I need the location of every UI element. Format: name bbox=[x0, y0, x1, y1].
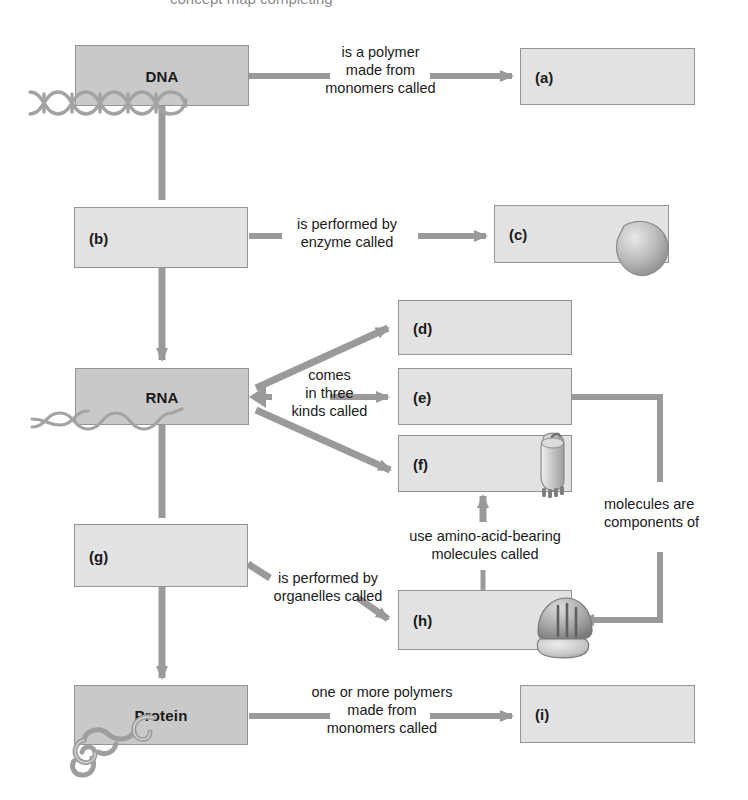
node-c[interactable]: (c) bbox=[494, 205, 669, 263]
edge-label-rna-kinds: comes in three kinds called bbox=[272, 367, 387, 420]
node-rna-label: RNA bbox=[76, 388, 248, 405]
cropped-heading: concept map completing bbox=[0, 0, 748, 16]
cropped-heading-text: concept map completing bbox=[170, 0, 333, 7]
arrow-e-to-h-seg1 bbox=[572, 397, 660, 482]
node-f[interactable]: (f) bbox=[398, 435, 572, 492]
node-h[interactable]: (h) bbox=[398, 590, 572, 650]
edge-label-h-to-f: use amino-acid-bearing molecules called bbox=[378, 528, 592, 564]
edge-label-e-to-h: molecules are components of bbox=[604, 496, 748, 532]
node-d-label: (d) bbox=[413, 319, 432, 336]
node-rna[interactable]: RNA bbox=[75, 368, 249, 425]
node-e-label: (e) bbox=[413, 388, 431, 405]
edge-label-protein-to-i: one or more polymers made from monomers … bbox=[268, 684, 496, 737]
node-a-label: (a) bbox=[535, 68, 553, 85]
node-e[interactable]: (e) bbox=[398, 368, 572, 425]
node-h-label: (h) bbox=[413, 612, 432, 629]
edge-label-dna-to-a: is a polymer made from monomers called bbox=[268, 44, 493, 97]
concept-map-canvas: concept map completing bbox=[0, 0, 748, 800]
node-protein-label: Protein bbox=[75, 707, 247, 724]
node-i-label: (i) bbox=[535, 706, 549, 723]
node-f-label: (f) bbox=[413, 455, 428, 472]
node-g[interactable]: (g) bbox=[74, 524, 248, 587]
edge-label-b-to-c: is performed by enzyme called bbox=[272, 216, 422, 252]
node-dna[interactable]: DNA bbox=[75, 45, 249, 106]
node-i[interactable]: (i) bbox=[520, 685, 695, 743]
node-protein[interactable]: Protein bbox=[74, 685, 248, 745]
node-b-label: (b) bbox=[89, 229, 108, 246]
node-dna-label: DNA bbox=[76, 67, 248, 84]
node-c-label: (c) bbox=[509, 226, 527, 243]
node-b[interactable]: (b) bbox=[74, 207, 248, 268]
edge-label-g-to-h: is performed by organelles called bbox=[248, 570, 408, 606]
node-g-label: (g) bbox=[89, 547, 108, 564]
arrow-e-to-h-seg2 bbox=[582, 552, 660, 620]
node-d[interactable]: (d) bbox=[398, 300, 572, 355]
node-a[interactable]: (a) bbox=[520, 48, 695, 105]
